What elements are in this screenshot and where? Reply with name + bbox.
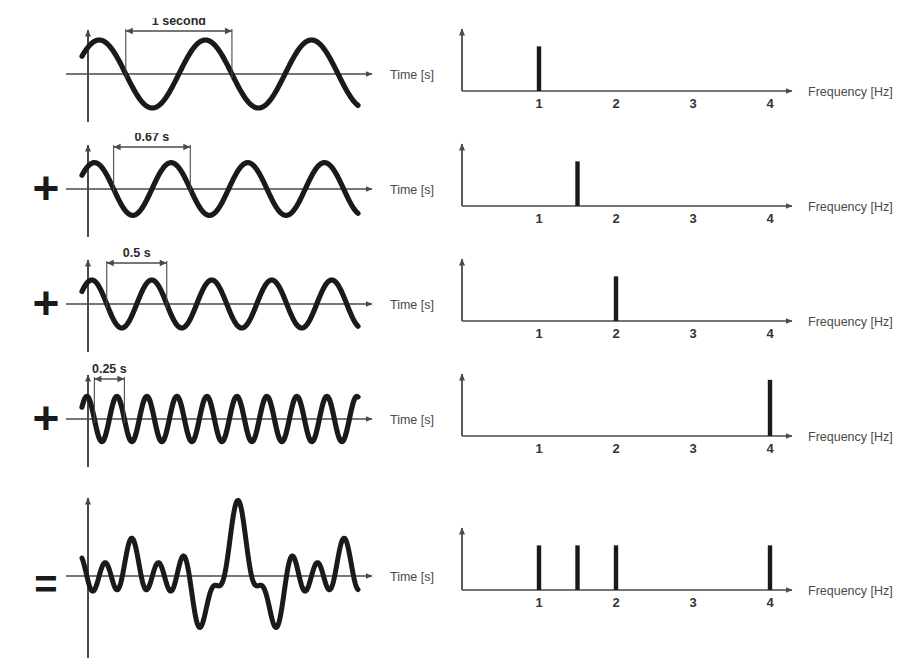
time-domain-plot: 0.25 sTime [s] — [0, 363, 460, 475]
frequency-tick-label: 1 — [535, 96, 542, 111]
frequency-tick-label: 3 — [689, 441, 696, 456]
time-panel: 0.5 sTime [s] — [0, 248, 460, 360]
time-panel: 0.67 sTime [s] — [0, 133, 460, 245]
frequency-axis-label: Frequency [Hz] — [808, 200, 893, 214]
time-domain-plot: 0.5 sTime [s] — [0, 248, 460, 360]
frequency-tick-label: 3 — [689, 595, 696, 610]
frequency-tick-label: 4 — [766, 96, 774, 111]
time-panel: 1 secondTime [s] — [0, 18, 460, 130]
frequency-tick-label: 1 — [535, 441, 542, 456]
frequency-tick-label: 1 — [535, 326, 542, 341]
signal-row: +0.25 sTime [s]1234Frequency [Hz] — [0, 363, 920, 475]
frequency-axis-label: Frequency [Hz] — [808, 85, 893, 99]
frequency-tick-label: 2 — [612, 211, 619, 226]
time-domain-plot: Time [s] — [0, 478, 460, 658]
frequency-tick-label: 3 — [689, 326, 696, 341]
frequency-tick-label: 2 — [612, 595, 619, 610]
time-axis-label: Time [s] — [390, 570, 434, 584]
time-axis-label: Time [s] — [390, 68, 434, 82]
frequency-axis-label: Frequency [Hz] — [808, 430, 893, 444]
frequency-tick-label: 1 — [535, 595, 542, 610]
frequency-axis-label: Frequency [Hz] — [808, 315, 893, 329]
frequency-tick-label: 2 — [612, 326, 619, 341]
signal-row: 1 secondTime [s]1234Frequency [Hz] — [0, 18, 920, 130]
frequency-tick-label: 3 — [689, 211, 696, 226]
frequency-tick-label: 4 — [766, 441, 774, 456]
period-label: 1 second — [152, 18, 206, 28]
frequency-tick-label: 3 — [689, 96, 696, 111]
frequency-axis-label: Frequency [Hz] — [808, 584, 893, 598]
signal-row: +0.67 sTime [s]1234Frequency [Hz] — [0, 133, 920, 245]
time-axis-label: Time [s] — [390, 183, 434, 197]
frequency-tick-label: 2 — [612, 441, 619, 456]
time-axis-label: Time [s] — [390, 413, 434, 427]
fourier-decomposition-figure: 1 secondTime [s]1234Frequency [Hz]+0.67 … — [0, 0, 920, 661]
waveform-curve — [82, 500, 358, 627]
frequency-tick-label: 1 — [535, 211, 542, 226]
frequency-tick-label: 2 — [612, 96, 619, 111]
time-panel: 0.25 sTime [s] — [0, 363, 460, 475]
period-label: 0.25 s — [92, 363, 127, 376]
period-label: 0.5 s — [123, 248, 151, 260]
signal-row: =Time [s]1234Frequency [Hz] — [0, 478, 920, 658]
signal-row: +0.5 sTime [s]1234Frequency [Hz] — [0, 248, 920, 360]
period-label: 0.67 s — [135, 133, 170, 144]
time-domain-plot: 1 secondTime [s] — [0, 18, 460, 130]
time-panel: Time [s] — [0, 478, 460, 658]
time-axis-label: Time [s] — [390, 298, 434, 312]
time-domain-plot: 0.67 sTime [s] — [0, 133, 460, 245]
frequency-tick-label: 4 — [766, 211, 774, 226]
frequency-tick-label: 4 — [766, 326, 774, 341]
frequency-tick-label: 4 — [766, 595, 774, 610]
